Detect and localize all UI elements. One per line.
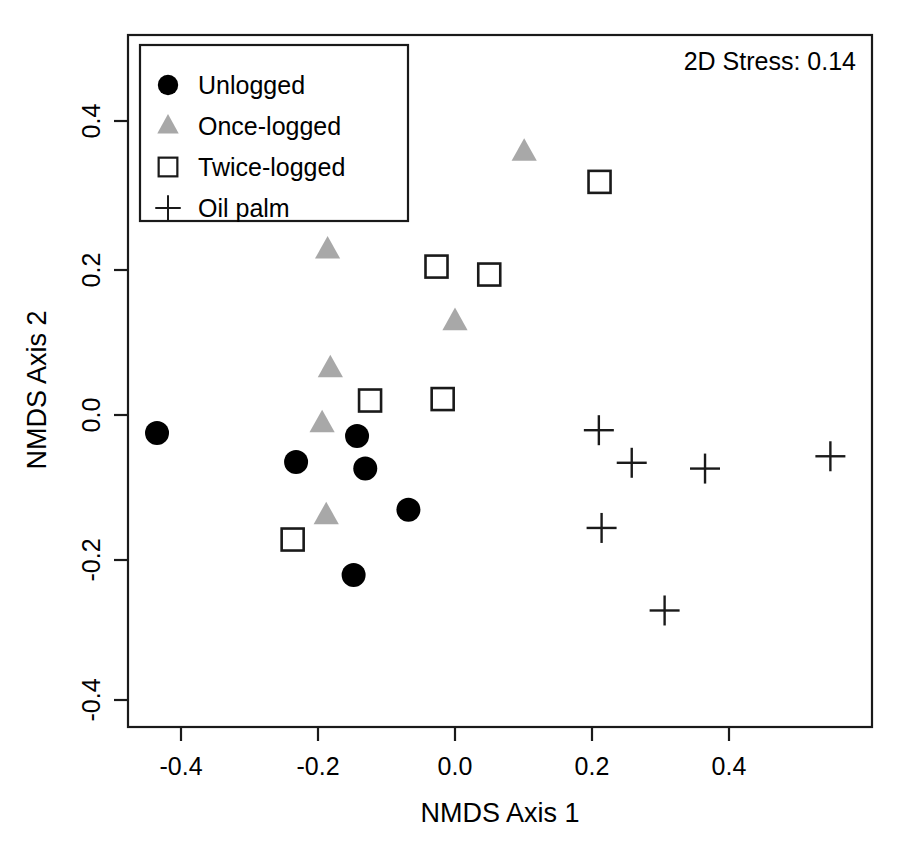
data-point <box>584 415 614 445</box>
data-point <box>815 441 845 471</box>
y-tick-label: -0.2 <box>77 538 105 581</box>
data-point <box>690 454 720 484</box>
y-axis-ticks <box>114 121 128 700</box>
data-point <box>617 448 647 478</box>
y-axis-title: NMDS Axis 2 <box>22 310 52 469</box>
data-point <box>318 355 343 378</box>
x-tick-label: -0.2 <box>296 752 339 780</box>
plot-canvas: -0.4 -0.2 0.0 0.2 0.4 0.4 0.2 0.0 -0.2 -… <box>0 0 907 851</box>
x-tick-label: 0.4 <box>712 752 747 780</box>
data-point <box>442 308 467 331</box>
legend-label: Twice-logged <box>198 153 345 181</box>
data-point <box>314 502 339 525</box>
legend-marker-filled-circle <box>158 75 178 95</box>
data-point <box>310 410 335 433</box>
x-tick-label: 0.0 <box>438 752 473 780</box>
legend-label: Unlogged <box>198 71 305 99</box>
y-tick-label: 0.0 <box>77 398 105 433</box>
data-point <box>359 390 381 412</box>
y-tick-labels: 0.4 0.2 0.0 -0.2 -0.4 <box>77 104 105 722</box>
x-tick-label: 0.2 <box>575 752 610 780</box>
data-point <box>345 424 369 448</box>
x-axis-ticks <box>181 727 729 741</box>
x-tick-labels: -0.4 -0.2 0.0 0.2 0.4 <box>159 752 746 780</box>
legend-label: Once-logged <box>198 112 341 140</box>
data-point <box>426 256 448 278</box>
data-point <box>396 498 420 522</box>
nmds-ordination-figure: -0.4 -0.2 0.0 0.2 0.4 0.4 0.2 0.0 -0.2 -… <box>0 0 907 851</box>
y-tick-label: 0.2 <box>77 253 105 288</box>
data-point <box>353 457 377 481</box>
y-tick-label: 0.4 <box>77 104 105 139</box>
data-point <box>145 421 169 445</box>
data-point <box>282 529 304 551</box>
data-point <box>589 171 611 193</box>
data-point <box>512 138 537 161</box>
data-point <box>650 595 680 625</box>
legend-label: Oil palm <box>198 194 290 222</box>
data-point <box>342 563 366 587</box>
data-point <box>432 388 454 410</box>
data-point <box>478 264 500 286</box>
data-point <box>587 513 617 543</box>
x-tick-label: -0.4 <box>159 752 202 780</box>
data-point <box>315 236 340 259</box>
legend: UnloggedOnce-loggedTwice-loggedOil palm <box>140 45 408 222</box>
y-tick-label: -0.4 <box>77 678 105 721</box>
x-axis-title: NMDS Axis 1 <box>420 798 579 828</box>
stress-annotation: 2D Stress: 0.14 <box>684 47 856 75</box>
data-point <box>284 450 308 474</box>
